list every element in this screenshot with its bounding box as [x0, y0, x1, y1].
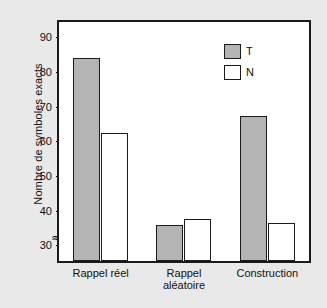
x-category-label: Construction: [236, 267, 298, 279]
y-tick-label: 90: [40, 31, 52, 43]
bar-t: [156, 225, 183, 261]
bar-group: [59, 22, 142, 261]
bar-t: [73, 58, 100, 261]
y-tick-label: 40: [40, 205, 52, 217]
y-axis-tick-labels: 30405060708090: [26, 18, 52, 268]
legend-item-t: T: [224, 42, 280, 61]
legend-swatch-t-icon: [224, 44, 241, 59]
bar-chart-figure: Nombre de symboles exacts 30405060708090…: [0, 0, 327, 308]
bar-group: [142, 22, 225, 261]
legend-item-n: N: [224, 63, 280, 82]
y-tick-label: 70: [40, 101, 52, 113]
x-category-label-line: Rappel: [163, 267, 205, 279]
bar-n: [184, 219, 211, 261]
x-category-label-line: Rappel réel: [73, 267, 129, 279]
bar-n: [268, 223, 295, 261]
legend-label-n: N: [246, 67, 254, 78]
x-axis-category-labels: Rappel réelRappelaléatoireConstruction: [59, 267, 309, 307]
y-tick-label: 60: [40, 135, 52, 147]
x-category-label-line: aléatoire: [163, 279, 205, 291]
legend-label-t: T: [246, 46, 253, 57]
y-tick-label: 50: [40, 170, 52, 182]
x-category-label: Rappel réel: [73, 267, 129, 279]
legend-swatch-n-icon: [224, 65, 241, 80]
legend: T N: [224, 42, 280, 84]
x-category-label: Rappelaléatoire: [163, 267, 205, 291]
bar-n: [101, 133, 128, 261]
bar-t: [240, 116, 267, 261]
x-category-label-line: Construction: [236, 267, 298, 279]
y-tick-label: 80: [40, 66, 52, 78]
